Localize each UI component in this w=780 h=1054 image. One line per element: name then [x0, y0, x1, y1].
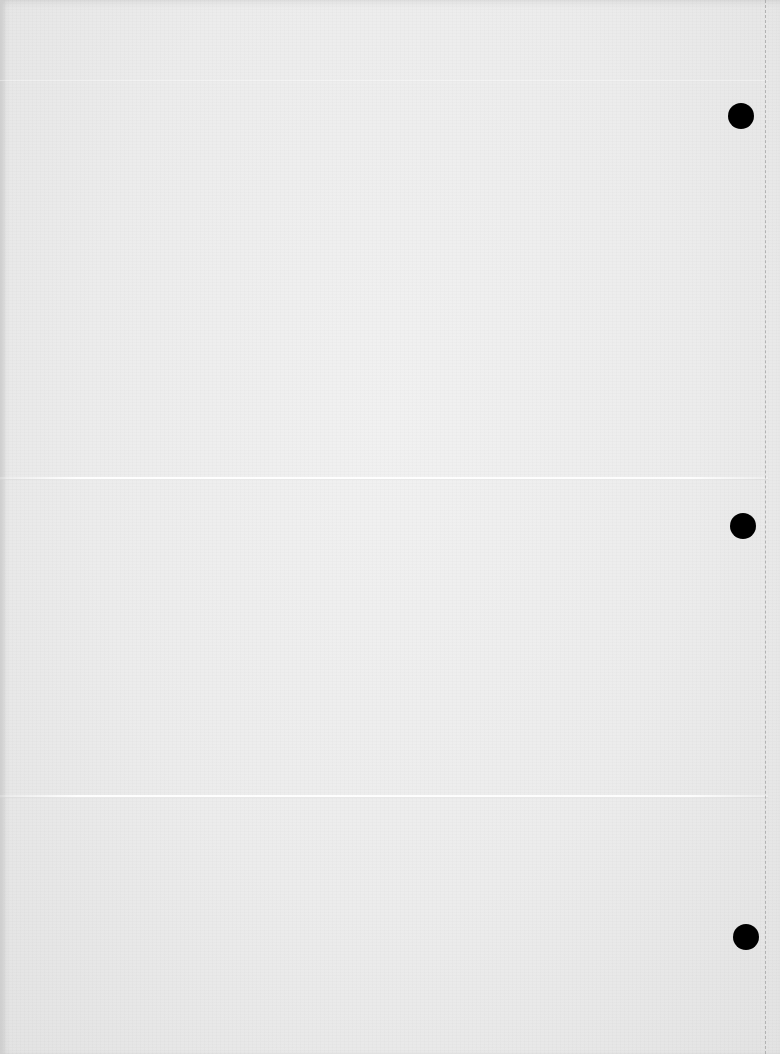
- fold-line-lower: [0, 795, 768, 798]
- scanned-page: [0, 0, 780, 1054]
- punch-hole-bottom: [733, 924, 759, 950]
- perforation-line: [765, 0, 766, 1054]
- faint-rule-line: [0, 80, 768, 81]
- fold-line-upper: [0, 477, 768, 480]
- punch-hole-middle: [730, 513, 756, 539]
- paper-texture: [0, 0, 780, 1054]
- punch-hole-top: [728, 103, 754, 129]
- page-left-edge-shadow: [0, 0, 6, 1054]
